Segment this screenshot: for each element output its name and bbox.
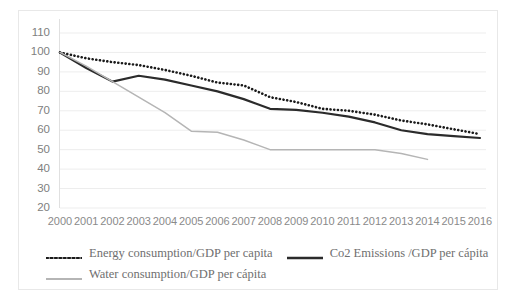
legend-item-energy[interactable]: Energy consumption/GDP per capita: [46, 246, 273, 261]
chart-legend: Energy consumption/GDP per capita Co2 Em…: [46, 243, 486, 285]
series-line: [60, 52, 428, 159]
x-axis-tick-label: 2016: [464, 216, 496, 227]
series-lines: [60, 52, 480, 159]
solid-line-swatch-icon: [46, 270, 82, 280]
series-line: [60, 52, 480, 138]
chart-container: 2030405060708090100110 20002001200220032…: [0, 0, 515, 305]
dotted-line-swatch-icon: [46, 249, 82, 259]
gridlines: [60, 33, 486, 208]
legend-label-co2: Co2 Emissions /GDP per cápita: [330, 246, 489, 261]
solid-line-swatch-icon: [287, 249, 323, 259]
legend-label-energy: Energy consumption/GDP per capita: [89, 246, 273, 261]
legend-row-2: Water consumption/GDP per cápita: [46, 264, 486, 285]
legend-row-1: Energy consumption/GDP per capita Co2 Em…: [46, 243, 486, 264]
legend-label-water: Water consumption/GDP per cápita: [89, 267, 266, 282]
series-line: [60, 52, 480, 134]
legend-item-water[interactable]: Water consumption/GDP per cápita: [46, 267, 266, 282]
legend-item-co2[interactable]: Co2 Emissions /GDP per cápita: [287, 246, 489, 261]
